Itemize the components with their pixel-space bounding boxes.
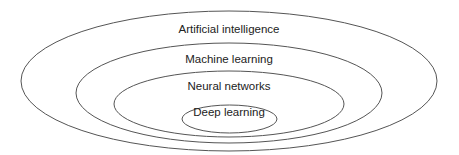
label-artificial-intelligence: Artificial intelligence	[179, 23, 280, 35]
label-neural-networks: Neural networks	[187, 80, 270, 92]
diagram-canvas: Artificial intelligence Machine learning…	[0, 0, 459, 155]
label-machine-learning: Machine learning	[185, 53, 273, 65]
label-deep-learning: Deep learning	[193, 106, 265, 118]
